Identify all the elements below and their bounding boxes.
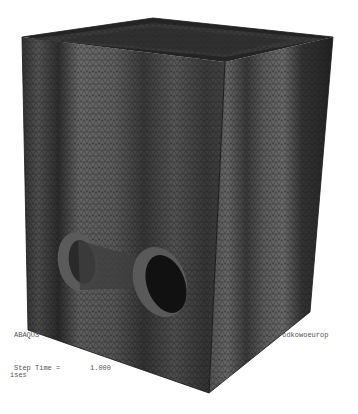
model-viewport[interactable]: ABAQUS rodkowoeurop Step Time = 1.000 is…: [0, 0, 358, 414]
fea-mesh-model: [0, 0, 358, 414]
abaqus-header-text: ABAQUS: [14, 331, 39, 339]
variable-label: ises: [10, 371, 27, 379]
abaqus-header-tail-text: rodkowoeurop: [278, 331, 328, 339]
step-time-value: 1.000: [90, 364, 111, 372]
